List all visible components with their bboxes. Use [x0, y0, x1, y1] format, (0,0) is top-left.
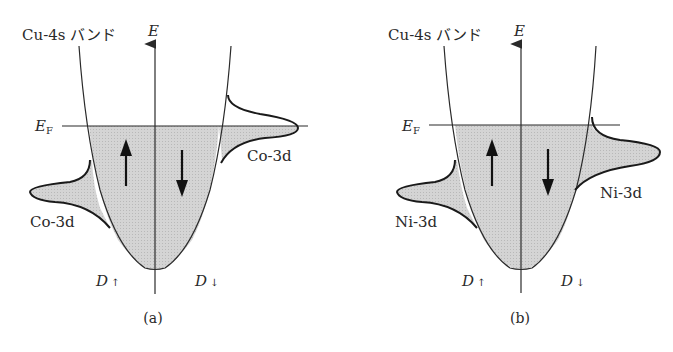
co-3d-label-right: Co-3d — [247, 147, 292, 165]
energy-axis-label-b: E — [513, 22, 525, 40]
fermi-level-label-b: EF — [401, 117, 420, 136]
cu-4s-band-label-b: Cu-4s バンド — [388, 26, 482, 44]
panel-b: Cu-4s バンド E EF Ni-3d Ni-3d D↑ D↓ (b) — [388, 22, 660, 326]
ni-3d-label-right: Ni-3d — [600, 184, 643, 202]
dos-spin-down-label-a: D↓ — [194, 272, 218, 290]
dos-spin-down-label-b: D↓ — [560, 272, 584, 290]
spin-dos-diagram: Cu-4s バンド E EF Co-3d Co-3d D↑ D↓ (a) — [0, 0, 673, 352]
fermi-level-label-a: EF — [34, 117, 53, 136]
dos-spin-up-label-b: D↑ — [461, 272, 485, 290]
panel-caption-b: (b) — [510, 310, 530, 326]
ni-3d-label-left: Ni-3d — [395, 213, 438, 231]
cu-4s-band-label-a: Cu-4s バンド — [22, 26, 116, 44]
panel-caption-a: (a) — [143, 310, 162, 326]
energy-axis-label-a: E — [147, 22, 159, 40]
panel-a: Cu-4s バンド E EF Co-3d Co-3d D↑ D↓ (a) — [22, 22, 308, 326]
dos-spin-up-label-a: D↑ — [95, 272, 119, 290]
co-3d-label-left: Co-3d — [30, 213, 75, 231]
